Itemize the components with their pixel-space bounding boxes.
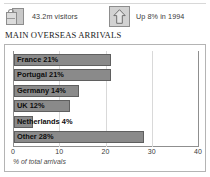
stat-visitors-label: 43.2m visitors: [32, 12, 78, 21]
bar-row: Other 28%: [14, 131, 199, 143]
page-title: MAIN OVERSEAS ARRIVALS: [5, 30, 121, 40]
stat-growth-label: Up 8% in 1994: [136, 12, 184, 21]
bar-series: France 21%Portugal 21%Germany 14%UK 12%N…: [14, 51, 199, 146]
bar-label: Other 28%: [17, 131, 54, 143]
stat-growth: Up 8% in 1994: [109, 6, 184, 27]
suitcase-icon: [5, 6, 26, 27]
bar-row: Portugal 21%: [14, 69, 199, 81]
bar-label: Germany 14%: [17, 85, 66, 97]
bar-label: Netherlands 4%: [17, 116, 72, 128]
stats-row: 43.2m visitors Up 8% in 1994: [0, 6, 210, 29]
bar-row: UK 12%: [14, 100, 199, 112]
x-axis-ticks: 010203040: [13, 148, 199, 158]
x-axis-tick: 30: [148, 148, 156, 155]
bar-row: Germany 14%: [14, 85, 199, 97]
up-arrow-icon: [109, 6, 130, 27]
bar-label: France 21%: [17, 54, 58, 66]
x-axis-tick: 20: [102, 148, 110, 155]
bar-label: UK 12%: [17, 100, 45, 112]
chart-frame: France 21%Portugal 21%Germany 14%UK 12%N…: [4, 44, 206, 172]
x-axis-tick: 0: [11, 148, 15, 155]
x-axis-tick: 40: [194, 148, 202, 155]
bar-row: Netherlands 4%: [14, 116, 199, 128]
bar-row: France 21%: [14, 54, 199, 66]
infographic-panel: 43.2m visitors Up 8% in 1994 MAIN OVERSE…: [0, 0, 210, 177]
stat-visitors: 43.2m visitors: [5, 6, 78, 27]
bar-label: Portugal 21%: [17, 69, 64, 81]
x-axis-tick: 10: [55, 148, 63, 155]
top-divider: [4, 3, 206, 4]
x-axis-label: % of total arrivals: [13, 158, 66, 165]
bar-chart-plot: France 21%Portugal 21%Germany 14%UK 12%N…: [13, 51, 199, 147]
